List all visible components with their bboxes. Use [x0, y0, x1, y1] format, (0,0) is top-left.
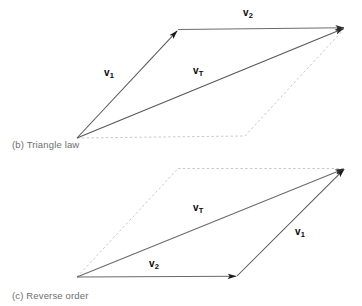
label-vt-symbol: v [193, 202, 199, 213]
figure-triangle-law: v1 v2 vT (b) Triangle law [0, 0, 362, 153]
label-v1-symbol: v [295, 226, 301, 237]
label-v2-subscript: 2 [249, 11, 253, 20]
label-v1-subscript: 1 [110, 71, 114, 80]
label-vt: vT [193, 66, 203, 76]
vector-vt-arrow [77, 29, 344, 138]
caption-triangle-law: (b) Triangle law [12, 139, 79, 150]
label-v1: v1 [295, 227, 305, 237]
label-v2: v2 [243, 8, 253, 18]
dashed-base-line [77, 136, 245, 138]
label-v2-symbol: v [149, 258, 155, 269]
vector-vt-arrow [77, 169, 344, 277]
reverse-order-vector-diagram [0, 153, 362, 306]
label-vt-subscript: T [199, 69, 204, 78]
dashed-side-line [245, 29, 344, 136]
vector-v2-arrow [77, 276, 236, 277]
triangle-law-vector-diagram [0, 0, 362, 153]
vector-v1-arrow [237, 169, 344, 276]
vector-v2-arrow [178, 28, 344, 30]
label-vt: vT [193, 203, 203, 213]
figure-reverse-order: v2 v1 vT (c) Reverse order [0, 153, 362, 306]
caption-reverse-order: (c) Reverse order [12, 290, 88, 301]
label-v2-subscript: 2 [155, 262, 159, 271]
label-v1-symbol: v [104, 67, 110, 78]
label-vt-symbol: v [193, 65, 199, 76]
vector-v1-arrow [77, 31, 177, 138]
dashed-side-line [77, 169, 178, 278]
label-v2: v2 [149, 259, 159, 269]
label-v1: v1 [104, 68, 114, 78]
label-v2-symbol: v [243, 7, 249, 18]
label-v1-subscript: 1 [301, 230, 305, 239]
label-vt-subscript: T [199, 206, 204, 215]
